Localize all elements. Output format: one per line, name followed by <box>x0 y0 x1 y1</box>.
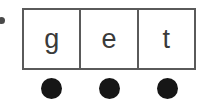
counter-slot-2 <box>80 78 138 99</box>
sound-box-cell-3[interactable]: t <box>139 10 194 68</box>
cell-letter: g <box>44 26 59 53</box>
sound-box-cell-2[interactable]: e <box>81 10 138 68</box>
bullet-dot-icon <box>0 17 5 24</box>
sound-boxes-grid: g e t <box>22 8 196 70</box>
sound-box-worksheet: g e t <box>0 0 209 105</box>
cell-letter: e <box>101 26 116 53</box>
counter-dot-icon[interactable] <box>99 78 120 99</box>
sound-box-cell-1[interactable]: g <box>24 10 81 68</box>
counter-dot-icon[interactable] <box>157 78 178 99</box>
counter-dot-icon[interactable] <box>41 78 62 99</box>
counter-row <box>22 78 196 102</box>
cell-letter: t <box>163 26 171 53</box>
counter-slot-1 <box>22 78 80 99</box>
counter-slot-3 <box>138 78 196 99</box>
